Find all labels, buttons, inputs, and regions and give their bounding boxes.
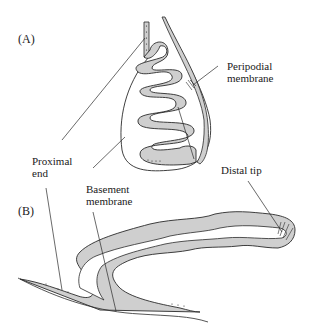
panel-label-a: (A)	[18, 33, 35, 45]
label-distal-tip: Distal tip	[221, 164, 262, 176]
panel-label-b: (B)	[18, 205, 34, 217]
label-proximal-end: Proximal end	[32, 155, 72, 179]
label-basement-membrane: Basement membrane	[86, 183, 132, 207]
label-peripodial-membrane: Peripodial membrane	[227, 60, 273, 84]
